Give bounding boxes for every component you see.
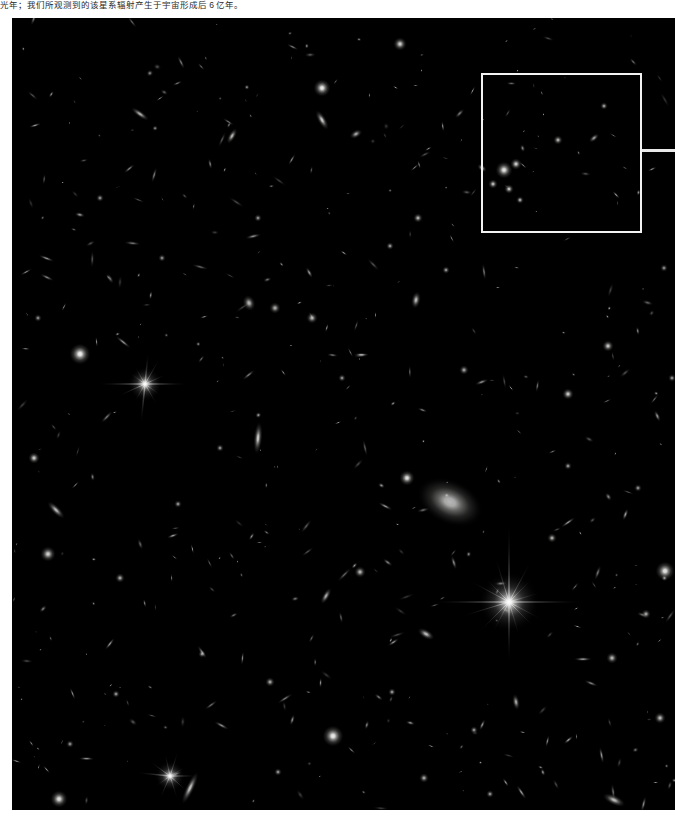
starfield-canvas: [12, 18, 675, 810]
image-caption: 光年；我们所观测到的该星系辐射产生于宇宙形成后 6 亿年。: [0, 0, 675, 12]
callout-leader-line: [642, 149, 675, 152]
deep-field-page: 光年；我们所观测到的该星系辐射产生于宇宙形成后 6 亿年。: [0, 0, 675, 822]
deep-field-image: [12, 18, 675, 810]
